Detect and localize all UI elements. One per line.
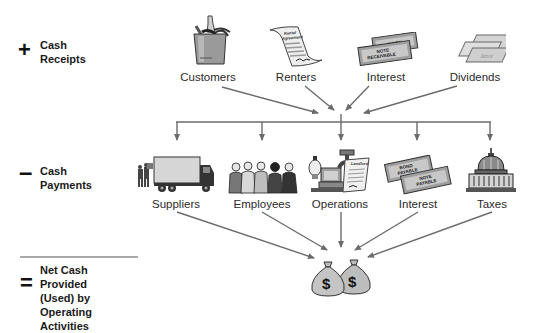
dividends-label: Dividends — [435, 71, 515, 83]
plus-sign: + — [18, 39, 31, 61]
payments-label: Cash Payments — [40, 164, 92, 192]
employees-label: Employees — [222, 198, 302, 210]
employees-group-icon — [228, 160, 300, 194]
capitol-building-icon — [466, 146, 516, 194]
minus-sign: – — [19, 160, 32, 184]
stock-certificates-icon: Stock — [446, 32, 506, 66]
notes-payable-icon: BOND PAYABLE NOTE PAYABLE — [382, 155, 454, 195]
customers-label: Customers — [168, 71, 248, 83]
arrow-renters — [305, 86, 334, 110]
operations-label: Operations — [300, 198, 380, 210]
taxes-label: Taxes — [452, 198, 532, 210]
net-label: Net Cash Provided (Used) by Operating Ac… — [40, 263, 92, 333]
arrow-customers — [222, 87, 318, 113]
interest-received-label: Interest — [346, 71, 426, 83]
suppliers-label: Suppliers — [136, 198, 216, 210]
equals-sign: = — [20, 272, 33, 294]
receipts-label: Cash Receipts — [40, 38, 86, 66]
notes-receivable-icon: NOTE NOTE RECEIVABLE — [355, 32, 421, 66]
svg-text:Landlord: Landlord — [351, 161, 369, 166]
delivery-truck-icon — [136, 155, 218, 195]
svg-text:$: $ — [322, 275, 331, 292]
arrow-dividends — [364, 86, 457, 113]
operations-utilities-icon: Landlord — [307, 146, 375, 194]
arrow-interest-received — [346, 86, 369, 110]
interest-paid-label: Interest — [378, 198, 458, 210]
renters-label: Renters — [256, 71, 336, 83]
rental-agreement-icon: Rental Agreement — [268, 24, 324, 68]
money-bags-icon: $ $ — [306, 256, 378, 298]
svg-text:$: $ — [348, 273, 357, 290]
shopping-bag-icon — [186, 12, 236, 66]
